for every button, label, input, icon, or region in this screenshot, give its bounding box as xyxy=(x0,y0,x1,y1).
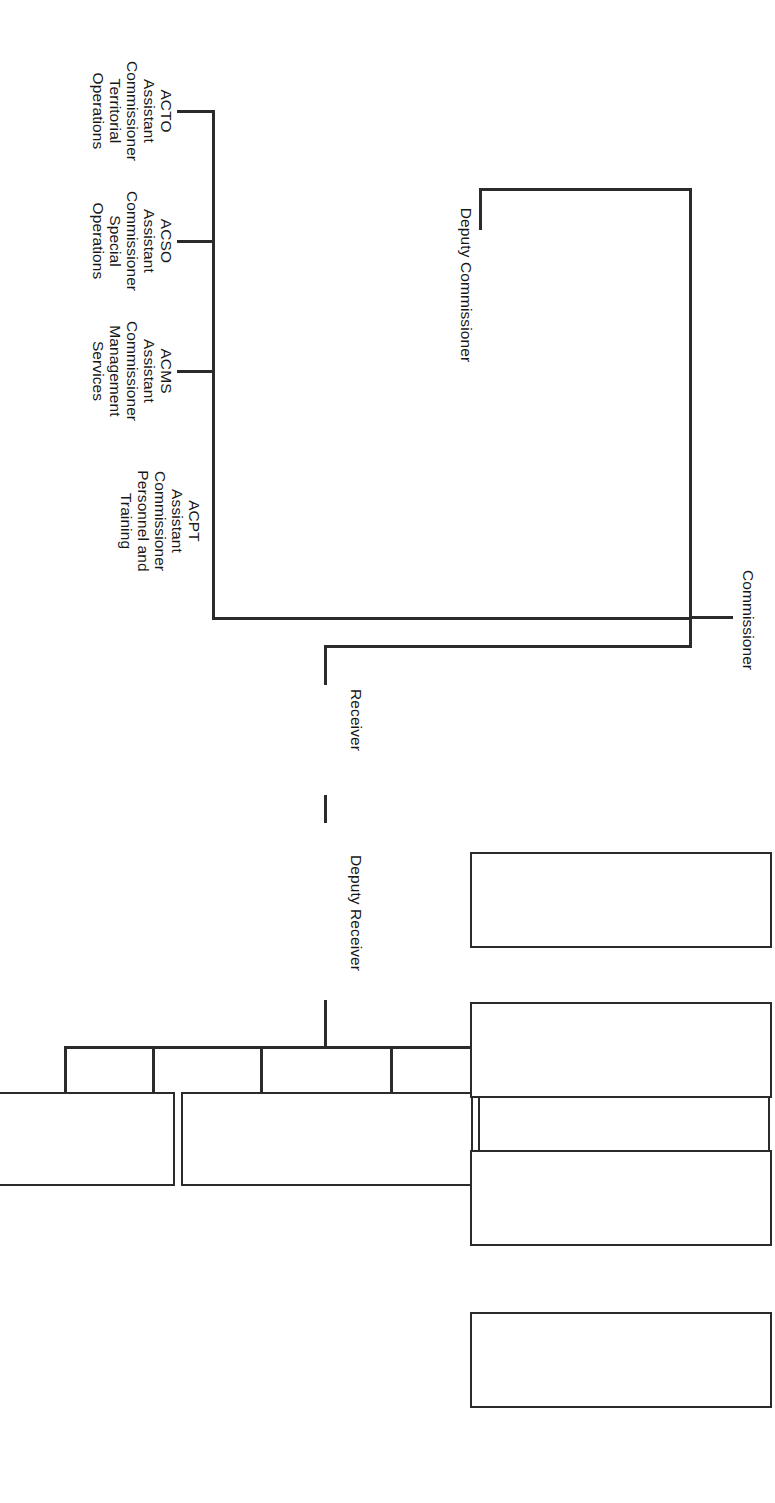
box-acto[interactable] xyxy=(470,1312,772,1408)
box-acso[interactable] xyxy=(470,1150,772,1246)
box-acms[interactable] xyxy=(470,1002,772,1098)
chart-page: Commissioner Receiver Deputy Receiver xyxy=(0,0,775,1503)
ac-box-layer xyxy=(0,0,775,1503)
box-acpt[interactable] xyxy=(470,852,772,948)
